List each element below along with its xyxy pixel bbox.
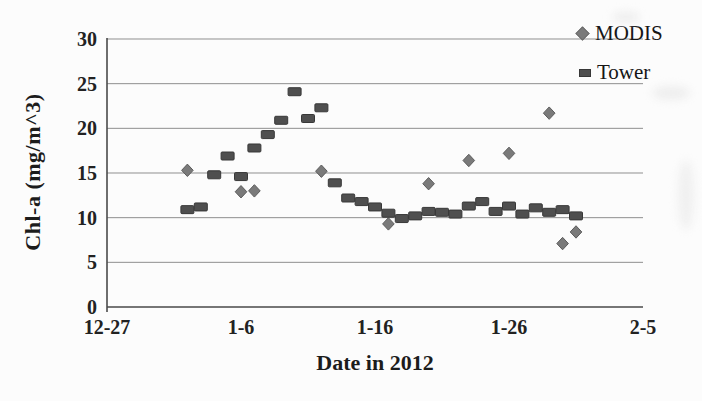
tower-point — [449, 210, 462, 218]
y-tick-label: 25 — [37, 71, 97, 97]
tower-point — [436, 208, 449, 216]
tower-point — [261, 131, 274, 139]
tower-point — [342, 194, 355, 202]
tower-point — [395, 215, 408, 223]
tower-point — [516, 210, 529, 218]
tower-point — [208, 171, 221, 179]
tower-point — [570, 212, 583, 220]
tower-point — [194, 203, 207, 211]
modis-point — [570, 226, 582, 238]
modis-diamond-marker-icon — [575, 26, 589, 40]
tower-point — [462, 202, 475, 210]
modis-point — [503, 147, 515, 159]
scan-smudge — [652, 86, 690, 100]
legend-label-modis: MODIS — [595, 21, 663, 46]
tower-point — [503, 202, 516, 210]
tower-point — [288, 88, 301, 96]
modis-point — [235, 186, 247, 198]
tower-point — [235, 173, 248, 181]
tower-point — [275, 116, 288, 124]
modis-point — [316, 165, 328, 177]
legend-label-tower: Tower — [597, 60, 650, 85]
tower-point — [382, 209, 395, 217]
x-tick-label: 1-16 — [330, 315, 420, 339]
x-tick-label: 12-27 — [62, 315, 152, 339]
scan-smudge — [612, 12, 640, 22]
y-tick-label: 20 — [37, 115, 97, 141]
legend-item-tower: Tower — [579, 60, 650, 85]
tower-point — [489, 207, 502, 215]
modis-point — [182, 164, 194, 176]
modis-point — [543, 107, 555, 119]
tower-point — [181, 206, 194, 214]
tower-point — [302, 115, 315, 123]
tower-point — [355, 198, 368, 206]
tower-point — [328, 179, 341, 187]
tower-point — [369, 203, 382, 211]
y-tick-label: 10 — [37, 205, 97, 231]
x-axis-title: Date in 2012 — [275, 350, 475, 376]
tower-point — [248, 144, 261, 152]
tower-point — [221, 152, 234, 160]
tower-point — [476, 198, 489, 206]
tower-point — [315, 104, 328, 112]
modis-point — [557, 237, 569, 249]
tower-point — [556, 206, 569, 214]
tower-square-marker-icon — [579, 69, 591, 77]
x-tick-label: 2-5 — [598, 315, 688, 339]
x-tick-label: 1-26 — [464, 315, 554, 339]
tower-point — [409, 212, 422, 220]
modis-point — [463, 154, 475, 166]
tower-point — [529, 204, 542, 212]
modis-point — [383, 218, 395, 230]
legend-item-modis: MODIS — [576, 21, 663, 46]
tower-point — [422, 207, 435, 215]
tower-point — [543, 208, 556, 216]
y-tick-label: 5 — [37, 249, 97, 275]
chart-figure: Chl-a (mg/m^3) Date in 2012 051015202530… — [0, 0, 702, 401]
modis-point — [249, 185, 261, 197]
y-tick-label: 30 — [37, 26, 97, 52]
modis-point — [423, 178, 435, 190]
x-tick-label: 1-6 — [196, 315, 286, 339]
scan-smudge — [678, 160, 694, 230]
y-tick-label: 15 — [37, 160, 97, 186]
